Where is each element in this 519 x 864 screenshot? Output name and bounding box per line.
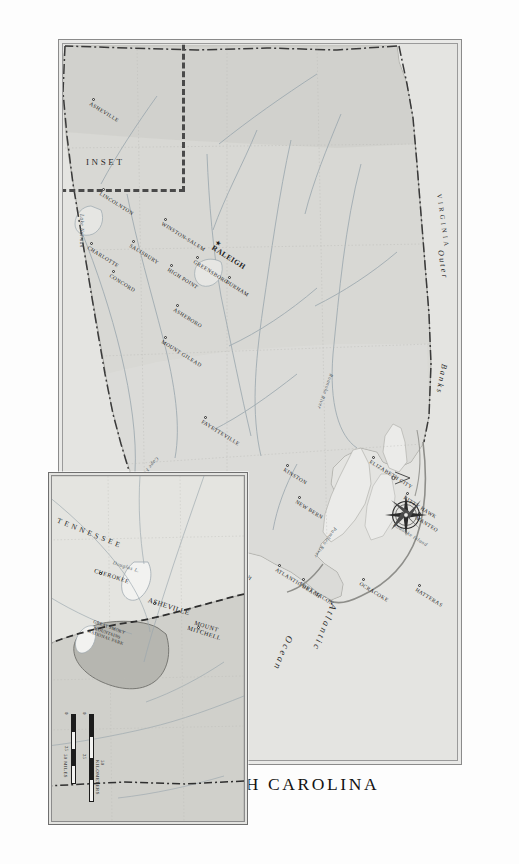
scale-seg xyxy=(90,715,93,737)
city-marker xyxy=(132,240,135,243)
inset-city-marker xyxy=(197,626,200,629)
inset-scale-mi-unit: 50 MILES xyxy=(63,754,68,778)
city-marker xyxy=(228,276,231,279)
city-marker xyxy=(298,496,301,499)
scale-seg xyxy=(90,758,93,780)
city-marker xyxy=(90,242,93,245)
inset-scale-mi-tick-25: 25 xyxy=(64,746,69,751)
inset-scale-km-tick-25: 25 xyxy=(82,754,87,759)
city-marker xyxy=(362,578,365,581)
city-marker xyxy=(204,416,207,419)
scale-seg xyxy=(72,715,75,732)
city-marker xyxy=(286,464,289,467)
map-rotation-wrapper: Outer Banks Atlantic Ocean VIRGINIA ELIZ… xyxy=(40,39,480,825)
map-page: Outer Banks Atlantic Ocean VIRGINIA ELIZ… xyxy=(0,0,519,864)
compass-rose-icon xyxy=(383,492,429,538)
city-marker xyxy=(278,564,281,567)
inset-scale-km-tick-0: 0 xyxy=(82,712,87,715)
inset-city-marker xyxy=(153,602,156,605)
capital-star-icon: ★ xyxy=(214,240,221,246)
inset-scale-mi-tick-0: 0 xyxy=(64,712,69,715)
city-marker xyxy=(418,584,421,587)
city-marker xyxy=(372,456,375,459)
compass-needle-icon xyxy=(391,468,413,488)
city-marker xyxy=(176,304,179,307)
inset-scale-bar: 50 KILOMETERS 0 25 0 xyxy=(71,714,94,802)
scale-seg xyxy=(90,780,93,802)
scale-seg xyxy=(72,749,75,766)
city-marker xyxy=(196,256,199,259)
city-marker xyxy=(170,264,173,267)
scale-seg xyxy=(90,737,93,759)
inset-city-marker xyxy=(99,572,102,575)
scale-seg xyxy=(72,732,75,749)
city-marker xyxy=(112,270,115,273)
city-marker xyxy=(164,336,167,339)
inset-scale-mi-bar xyxy=(71,714,76,784)
city-marker xyxy=(302,578,305,581)
scale-seg xyxy=(72,766,75,783)
inset-scale-km-unit: 50 KILOMETERS xyxy=(95,760,105,802)
inset-locator-rectangle xyxy=(62,43,185,192)
inset-map-frame: MOUNTMITCHELLASHEVILLECHEROKEE Douglas L… xyxy=(48,472,248,825)
inset-map-canvas: MOUNTMITCHELLASHEVILLECHEROKEE Douglas L… xyxy=(51,475,245,822)
city-marker xyxy=(164,218,167,221)
inset-scale-km-bar xyxy=(89,714,94,802)
